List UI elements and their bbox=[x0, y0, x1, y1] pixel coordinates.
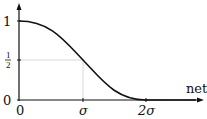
y-tick-label-0: 0 bbox=[3, 93, 11, 108]
activation-chart: 1 1 2 0 0 σ 2σ net bbox=[0, 0, 207, 119]
x-tick-label-sigma: σ bbox=[79, 103, 89, 118]
y-half-denominator: 2 bbox=[6, 60, 11, 70]
x-tick-label-2sigma: 2σ bbox=[137, 103, 156, 118]
x-tick-label-0: 0 bbox=[16, 103, 24, 118]
x-axis-arrow-icon bbox=[197, 98, 204, 103]
y-tick-label-1: 1 bbox=[3, 14, 11, 29]
y-half-numerator: 1 bbox=[6, 50, 11, 60]
x-axis-label: net bbox=[186, 81, 207, 96]
y-axis-arrow-icon bbox=[17, 3, 22, 10]
